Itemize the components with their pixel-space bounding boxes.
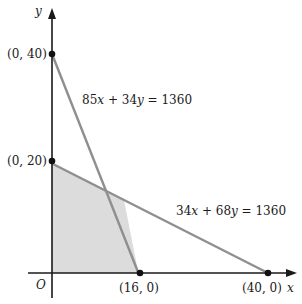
chart: x y O (0, 40) (0, 20) (16, 0) (40, 0) 85… <box>0 0 302 304</box>
point-40-0 <box>265 270 272 277</box>
point-label-40-0: (40, 0) <box>242 281 282 295</box>
feasible-region <box>52 164 138 274</box>
point-label-0-40: (0, 40) <box>7 47 47 61</box>
y-axis-arrow-icon <box>48 8 56 19</box>
origin-label: O <box>36 278 46 292</box>
point-0-20 <box>49 158 56 165</box>
x-axis-label: x <box>287 281 294 295</box>
point-16-0 <box>137 270 144 277</box>
x-axis-arrow-icon <box>286 269 297 277</box>
y-axis-label: y <box>34 4 42 18</box>
equation-label-1: 85x + 34y = 1360 <box>82 93 192 107</box>
equation-label-2: 34x + 68y = 1360 <box>176 204 286 218</box>
point-label-0-20: (0, 20) <box>7 154 47 168</box>
point-label-16-0: (16, 0) <box>119 281 159 295</box>
point-0-40 <box>49 51 56 58</box>
